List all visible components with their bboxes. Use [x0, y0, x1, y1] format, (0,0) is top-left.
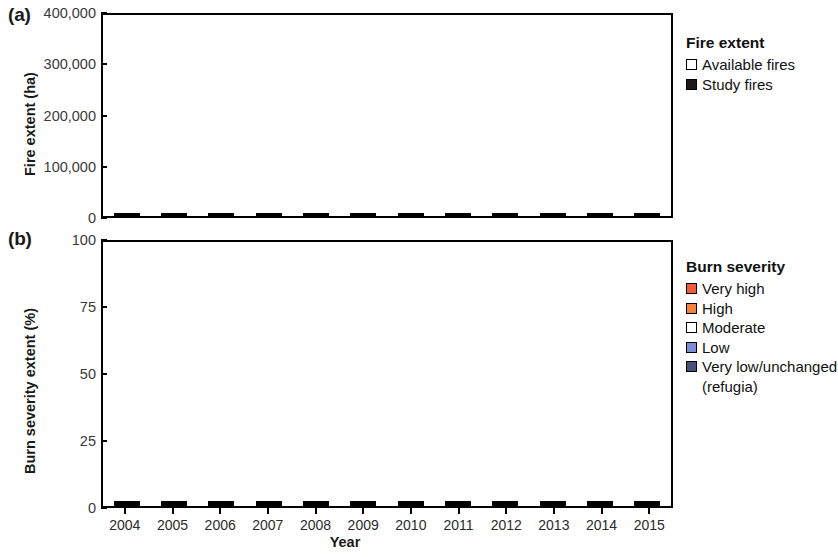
panel-b-bars — [103, 242, 671, 506]
stacked-bar-2009[interactable] — [350, 213, 376, 216]
x-tick-2014: 2014 — [578, 508, 626, 533]
legend-b-item-3: Low — [686, 339, 837, 356]
bar-segment — [445, 214, 471, 216]
legend-swatch-icon — [686, 303, 697, 314]
x-tick-mark — [172, 508, 174, 514]
y-tick-mark — [101, 440, 107, 442]
legend-a-title: Fire extent — [686, 34, 795, 52]
bar-slot-2015 — [624, 242, 671, 506]
bar-slot-2010 — [387, 15, 434, 216]
bar-segment — [492, 504, 518, 506]
y-tick: 0 — [0, 210, 101, 226]
panel-a-plot-area — [101, 13, 673, 218]
stacked-bar-2005[interactable] — [161, 213, 187, 216]
stacked-bar-2004[interactable] — [114, 501, 140, 506]
legend-b-title: Burn severity — [686, 258, 837, 276]
stacked-bar-2008[interactable] — [303, 501, 329, 506]
panel-b-legend: Burn severity Very highHighModerateLowVe… — [686, 258, 837, 395]
bar-segment — [492, 214, 518, 216]
bar-segment — [256, 214, 282, 216]
x-tick-mark — [601, 508, 603, 514]
bar-slot-2012 — [482, 15, 529, 216]
bar-slot-2004 — [103, 15, 150, 216]
y-tick-mark — [101, 12, 107, 14]
x-tick-2005: 2005 — [149, 508, 197, 533]
x-tick-2008: 2008 — [292, 508, 340, 533]
bar-slot-2011 — [434, 15, 481, 216]
x-tick-2009: 2009 — [339, 508, 387, 533]
stacked-bar-2006[interactable] — [208, 213, 234, 216]
x-tick-2013: 2013 — [530, 508, 578, 533]
y-tick-label: 0 — [88, 210, 101, 226]
stacked-bar-2015[interactable] — [634, 213, 660, 216]
stacked-bar-2010[interactable] — [398, 501, 424, 506]
bar-slot-2013 — [529, 242, 576, 506]
stacked-bar-2009[interactable] — [350, 501, 376, 506]
legend-swatch-icon — [686, 59, 697, 70]
y-tick-mark — [101, 63, 107, 65]
y-tick-label: 400,000 — [44, 5, 101, 21]
x-tick-2007: 2007 — [244, 508, 292, 533]
x-tick-label: 2011 — [443, 517, 473, 533]
bar-slot-2009 — [340, 242, 387, 506]
panel-a-legend: Fire extent Available firesStudy fires — [686, 34, 795, 95]
stacked-bar-2007[interactable] — [256, 213, 282, 216]
panel-b-y-axis-title: Burn severity extent (%) — [22, 308, 38, 474]
x-tick-label: 2009 — [348, 517, 379, 533]
y-tick-mark — [101, 115, 107, 117]
bar-slot-2008 — [292, 242, 339, 506]
legend-a-item-0: Available fires — [686, 56, 795, 73]
x-tick-mark — [553, 508, 555, 514]
legend-swatch-icon — [686, 361, 697, 372]
bar-slot-2010 — [387, 242, 434, 506]
bar-segment — [114, 504, 140, 506]
bar-slot-2015 — [624, 15, 671, 216]
x-tick-2006: 2006 — [196, 508, 244, 533]
stacked-bar-2011[interactable] — [445, 501, 471, 506]
stacked-bar-2013[interactable] — [540, 213, 566, 216]
x-tick-2012: 2012 — [482, 508, 530, 533]
stacked-bar-2012[interactable] — [492, 501, 518, 506]
legend-swatch-icon — [686, 322, 697, 333]
legend-b-item-label: Moderate — [702, 319, 765, 336]
legend-swatch-icon — [686, 342, 697, 353]
bar-segment — [114, 214, 140, 216]
stacked-bar-2004[interactable] — [114, 213, 140, 216]
figure-fire-extent-and-burn-severity: (a) Fire extent (ha) 0100,000200,000300,… — [0, 0, 838, 557]
bar-slot-2005 — [150, 15, 197, 216]
legend-b-item-2: Moderate — [686, 319, 837, 336]
stacked-bar-2011[interactable] — [445, 213, 471, 216]
stacked-bar-2005[interactable] — [161, 501, 187, 506]
stacked-bar-2014[interactable] — [587, 213, 613, 216]
x-tick-label: 2010 — [395, 517, 426, 533]
y-tick: 300,000 — [0, 56, 101, 72]
x-tick-mark — [410, 508, 412, 514]
stacked-bar-2010[interactable] — [398, 213, 424, 216]
bar-segment — [208, 214, 234, 216]
x-tick-label: 2014 — [586, 517, 617, 533]
x-tick-2010: 2010 — [387, 508, 435, 533]
legend-b-item-label: Low — [702, 339, 730, 356]
stacked-bar-2013[interactable] — [540, 501, 566, 506]
stacked-bar-2012[interactable] — [492, 213, 518, 216]
panel-b-plot-area — [101, 240, 673, 508]
legend-a-item-label: Available fires — [702, 56, 795, 73]
x-tick-mark — [362, 508, 364, 514]
stacked-bar-2014[interactable] — [587, 501, 613, 506]
y-tick-mark — [101, 373, 107, 375]
stacked-bar-2006[interactable] — [208, 501, 234, 506]
stacked-bar-2015[interactable] — [634, 501, 660, 506]
y-tick: 100,000 — [0, 159, 101, 175]
bar-slot-2007 — [245, 15, 292, 216]
bar-slot-2014 — [576, 242, 623, 506]
y-tick-label: 300,000 — [44, 56, 101, 72]
bar-segment — [398, 214, 424, 216]
legend-b-item-label: High — [702, 300, 733, 317]
y-tick-mark — [101, 166, 107, 168]
bar-segment — [540, 214, 566, 216]
stacked-bar-2008[interactable] — [303, 213, 329, 216]
bar-slot-2013 — [529, 15, 576, 216]
legend-swatch-icon — [686, 283, 697, 294]
bar-segment — [256, 504, 282, 506]
stacked-bar-2007[interactable] — [256, 501, 282, 506]
